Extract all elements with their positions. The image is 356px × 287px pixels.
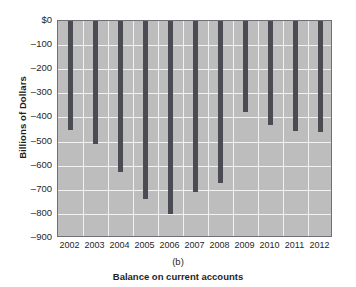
gridline-horizontal (58, 214, 331, 215)
gridline-vertical (108, 21, 109, 236)
gridline-vertical (233, 21, 234, 236)
chart-figure: Billions of Dollars $0–100–200–300–400–5… (0, 0, 356, 287)
bar-2003 (93, 21, 98, 144)
bar-2012 (318, 21, 323, 132)
gridline-vertical (283, 21, 284, 236)
bar-2009 (243, 21, 248, 112)
y-tick-label: $0 (6, 15, 52, 25)
y-tick-label: –700 (6, 184, 52, 194)
y-tick-label: –400 (6, 111, 52, 121)
y-tick-label: –100 (6, 39, 52, 49)
y-tick-label: –500 (6, 136, 52, 146)
y-tick-label: –900 (6, 232, 52, 242)
y-tick-label: –300 (6, 87, 52, 97)
panel-letter: (b) (0, 256, 356, 267)
gridline-vertical (208, 21, 209, 236)
bar-2008 (218, 21, 223, 183)
y-tick-label: –200 (6, 63, 52, 73)
gridline-vertical (183, 21, 184, 236)
plot-area (57, 20, 332, 237)
gridline-vertical (258, 21, 259, 236)
bar-2006 (168, 21, 173, 214)
bar-2002 (68, 21, 73, 130)
bar-2005 (143, 21, 148, 199)
gridline-vertical (133, 21, 134, 236)
x-tick-label-2012: 2012 (305, 240, 335, 250)
bar-2011 (293, 21, 298, 131)
chart-caption: Balance on current accounts (0, 271, 356, 282)
gridline-vertical (308, 21, 309, 236)
bar-2004 (118, 21, 123, 172)
gridline-vertical (158, 21, 159, 236)
bar-2007 (193, 21, 198, 192)
gridline-vertical (83, 21, 84, 236)
bar-2010 (268, 21, 273, 125)
y-tick-label: –600 (6, 160, 52, 170)
y-tick-label: –800 (6, 208, 52, 218)
